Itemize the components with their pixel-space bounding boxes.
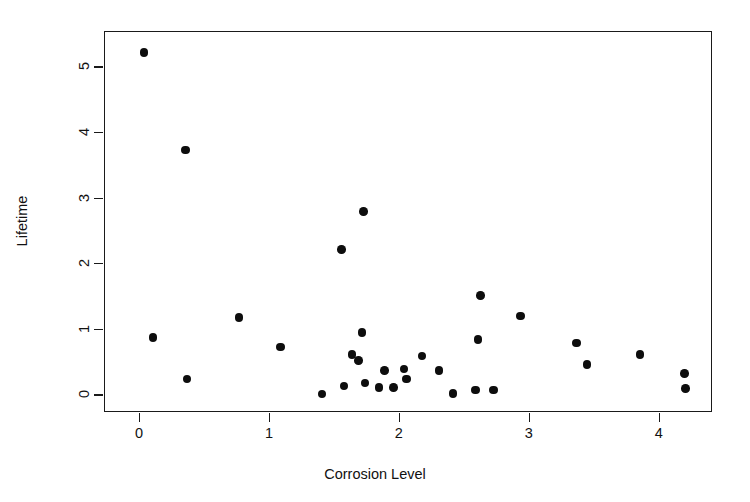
data-point [681,384,690,393]
y-axis-tick [94,132,103,133]
data-point [354,356,363,365]
data-point [435,366,444,375]
data-point [418,352,427,361]
data-point [318,390,327,399]
x-axis-tick-label: 4 [655,425,663,441]
scatter-plot-figure: Corrosion Level Lifetime 01234012345 [0,0,750,502]
data-point [340,382,349,391]
y-axis-tick-label: 4 [76,122,92,142]
x-axis-tick-label: 2 [395,425,403,441]
data-point [276,343,285,352]
plot-area [104,31,712,412]
data-point [181,146,190,155]
data-point [449,389,458,398]
y-axis-tick [94,329,103,330]
y-axis-tick-label: 0 [76,384,92,404]
data-points-layer [105,32,711,411]
x-axis-tick-label: 0 [135,425,143,441]
data-point [471,386,480,395]
y-axis-tick-label: 1 [76,319,92,339]
data-point [476,291,485,300]
data-point [516,312,525,321]
data-point [572,339,581,348]
data-point [402,375,411,384]
data-point [359,207,368,216]
data-point [380,366,389,375]
y-axis-tick-label: 2 [76,253,92,273]
data-point [489,386,498,395]
y-axis-tick [94,198,103,199]
data-point [636,350,645,359]
data-point [361,379,370,388]
y-axis-tick-label: 5 [76,56,92,76]
data-point [583,360,592,369]
data-point [375,383,384,392]
x-axis-label: Corrosion Level [0,466,750,482]
y-axis-tick [94,66,103,67]
data-point [389,383,398,392]
x-axis-tick-label: 1 [265,425,273,441]
x-axis-tick [269,413,270,422]
x-axis-tick [399,413,400,422]
data-point [680,369,689,378]
data-point [358,328,367,337]
data-point [474,335,483,344]
data-point [183,375,192,384]
y-axis-tick [94,263,103,264]
data-point [140,48,149,57]
y-axis-label: Lifetime [14,196,30,247]
data-point [149,333,158,342]
x-axis-tick-label: 3 [525,425,533,441]
x-axis-tick [139,413,140,422]
y-axis-tick-label: 3 [76,188,92,208]
data-point [337,245,346,254]
x-axis-tick [659,413,660,422]
data-point [235,313,244,322]
x-axis-tick [529,413,530,422]
data-point [400,365,409,374]
y-axis-tick [94,394,103,395]
